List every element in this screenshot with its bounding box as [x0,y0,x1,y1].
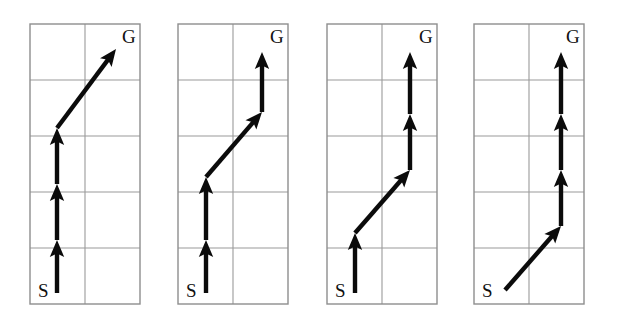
goal-label-1: G [122,26,136,47]
arrow-shaft-3-1 [355,180,401,233]
arrow-shaft-1-3 [57,59,108,128]
panel-2: SG [178,24,288,304]
goal-label-3: G [419,26,433,47]
panel-4: SG [474,24,584,304]
goal-label-4: G [566,26,580,47]
start-label-4: S [482,280,493,301]
goal-label-2: G [270,26,284,47]
panel-3: SG [327,24,437,304]
diagram-canvas: SGSGSGSG [0,0,618,322]
start-label-3: S [335,280,346,301]
start-label-1: S [38,280,49,301]
start-label-2: S [186,280,197,301]
panel-1: SG [30,24,140,304]
arrow-shaft-2-2 [206,122,254,177]
figure-container: SGSGSGSG [0,0,618,322]
